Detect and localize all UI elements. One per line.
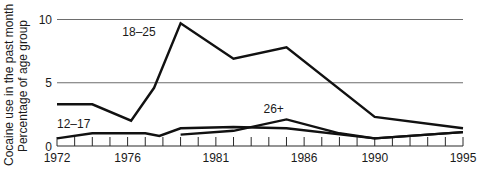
x-tick-label: 1972: [44, 151, 71, 165]
data-series: [57, 23, 463, 138]
series-label: 26+: [264, 102, 284, 116]
y-axis-label-line-2: Percentage of age group: [16, 6, 30, 166]
series-label: 12–17: [57, 117, 91, 131]
y-tick-label: 10: [39, 13, 53, 27]
y-axis-label: Cocaine use in the past month Percentage…: [2, 6, 30, 166]
x-tick-label: 1981: [203, 151, 230, 165]
x-axis: [57, 137, 463, 146]
line-chart: 0510 197219761981198619901995 18–2512–17…: [0, 0, 487, 175]
x-tick-label: 1986: [291, 151, 318, 165]
y-axis-tick-labels: 0510: [39, 13, 53, 154]
x-tick-label: 1995: [450, 151, 477, 165]
gridlines: [57, 20, 463, 83]
x-axis-tick-labels: 197219761981198619901995: [44, 151, 477, 165]
x-tick-label: 1990: [361, 151, 388, 165]
series-line-18–25: [57, 23, 463, 128]
series-label: 18–25: [122, 25, 156, 39]
y-tick-label: 5: [45, 76, 52, 90]
y-axis-label-line-1: Cocaine use in the past month: [2, 6, 16, 166]
series-labels: 18–2512–1726+: [57, 25, 284, 131]
x-tick-label: 1976: [114, 151, 141, 165]
